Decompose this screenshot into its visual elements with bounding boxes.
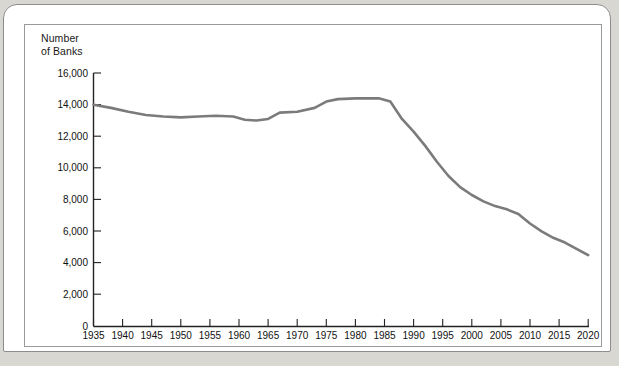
x-axis-ticks bbox=[94, 319, 589, 327]
figure-card: Number of Banks bbox=[3, 4, 611, 352]
data-series-line bbox=[94, 98, 589, 255]
y-tick-label: 14,000 bbox=[57, 99, 88, 110]
page-root: Number of Banks bbox=[0, 0, 619, 366]
y-tick-label: 8,000 bbox=[63, 194, 88, 205]
x-tick-label: 1935 bbox=[82, 330, 105, 341]
x-tick-label: 1945 bbox=[141, 330, 164, 341]
y-tick-label: 2,000 bbox=[63, 289, 88, 300]
x-tick-label: 1990 bbox=[402, 330, 425, 341]
x-tick-label: 1975 bbox=[315, 330, 338, 341]
x-tick-label: 1980 bbox=[344, 330, 367, 341]
x-tick-label: 1965 bbox=[257, 330, 280, 341]
y-tick-label: 10,000 bbox=[57, 162, 88, 173]
x-tick-label: 2000 bbox=[461, 330, 484, 341]
x-tick-label: 2020 bbox=[577, 330, 600, 341]
chart-area: Number of Banks bbox=[25, 25, 603, 348]
figure-frame: Number of Banks bbox=[24, 24, 602, 347]
x-tick-label: 1955 bbox=[199, 330, 222, 341]
page-bottom-strip bbox=[0, 354, 619, 366]
x-tick-label: 2010 bbox=[519, 330, 542, 341]
x-tick-label: 1985 bbox=[373, 330, 396, 341]
y-tick-label: 16,000 bbox=[57, 68, 88, 79]
y-tick-label: 4,000 bbox=[63, 257, 88, 268]
line-chart-svg: 16,000 14,000 12,000 10,000 8,000 6,000 … bbox=[25, 25, 603, 348]
y-tick-label: 12,000 bbox=[57, 131, 88, 142]
x-tick-label: 2015 bbox=[548, 330, 571, 341]
x-tick-label: 1950 bbox=[170, 330, 193, 341]
x-tick-label: 1940 bbox=[111, 330, 134, 341]
x-tick-label: 2005 bbox=[490, 330, 513, 341]
x-tick-label: 1960 bbox=[228, 330, 251, 341]
x-tick-label: 1970 bbox=[286, 330, 309, 341]
y-axis-tick-labels: 16,000 14,000 12,000 10,000 8,000 6,000 … bbox=[57, 68, 88, 332]
y-tick-label: 6,000 bbox=[63, 226, 88, 237]
x-axis-tick-labels: 1935 1940 1945 1950 1955 1960 1965 1970 … bbox=[82, 330, 599, 341]
x-tick-label: 1995 bbox=[432, 330, 455, 341]
